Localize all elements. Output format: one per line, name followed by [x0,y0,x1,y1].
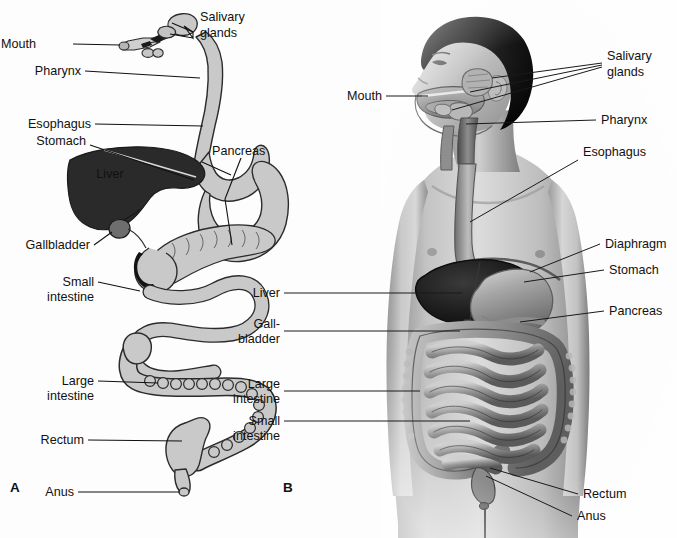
panel-a-label-large-intestine-line1: Large [62,374,94,388]
panel-b-label-pancreas: Pancreas [609,304,662,318]
panel-b-label-gallbladder-line2: bladder [238,332,280,346]
panel-b-nipple-right [535,250,545,258]
panel-b-larynx [441,126,454,170]
panel-b-label-large-intestine-line1: Large [248,377,280,391]
panel-a-label-small-intestine-line1: Small [63,275,95,289]
panel-b-parotid-gland [462,69,492,96]
panel-b-label-liver: Liver [253,286,280,300]
panel-b-label-rectum: Rectum [583,487,626,501]
panel-a-label-esophagus: Esophagus [28,117,91,131]
panel-a-label-anus: Anus [45,485,74,499]
panel-a-cecum-shape [123,333,151,364]
panel-b-nipple-left [427,248,437,256]
panel-b-letter: B [283,480,293,495]
digestive-system-figure: Liver [0,0,677,538]
panel-b-label-large-intestine-line2: intestine [233,392,280,406]
panel-b-label-esophagus: Esophagus [583,145,646,159]
panel-a-label-pharynx: Pharynx [35,64,82,78]
panel-a-anus-shape [179,488,189,496]
panel-a-label-mouth: Mouth [1,37,36,51]
figure-canvas: Liver [0,0,677,538]
panel-a-label-gallbladder: Gallbladder [26,238,90,252]
panel-a-label-pancreas: Pancreas [212,144,265,158]
panel-a-gallbladder-shape [109,220,130,239]
panel-b-label-mouth: Mouth [347,89,382,103]
panel-a-label-small-intestine-line2: intestine [47,290,94,304]
panel-b-label-salivary-line1: Salivary [607,49,652,63]
panel-a-label-large-intestine-line2: intestine [47,389,94,403]
panel-b-label-pharynx: Pharynx [601,113,648,127]
panel-a-label-rectum: Rectum [41,433,84,447]
panel-a-letter: A [10,480,20,495]
panel-b-label-small-intestine-line1: Small [249,414,281,428]
panel-a-label-stomach: Stomach [36,134,86,148]
panel-b-label-salivary-line2: glands [607,65,644,79]
panel-a-label-salivary-line2: glands [200,26,237,40]
panel-b-label-gallbladder-line1: Gall- [253,317,280,331]
panel-a-label-liver: Liver [96,167,123,181]
panel-b-label-stomach: Stomach [609,263,659,277]
panel-b-label-anus: Anus [577,509,606,523]
panel-a-label-salivary-line1: Salivary [200,10,245,24]
panel-b-sublingual-gland [435,104,451,115]
panel-b-label-small-intestine-line2: intestine [233,429,280,443]
panel-b-label-diaphragm: Diaphragm [605,237,667,251]
